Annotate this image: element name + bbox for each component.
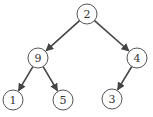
- edge-arrow: [46, 21, 79, 51]
- node-label: 1: [10, 94, 17, 107]
- tree-node: 5: [53, 90, 73, 110]
- tree-node: 9: [28, 48, 48, 68]
- edge-arrow: [19, 67, 33, 91]
- edge-arrow: [118, 67, 132, 90]
- node-label: 2: [84, 8, 91, 21]
- edge-arrow: [43, 67, 57, 91]
- tree-diagram: 294153: [0, 0, 153, 117]
- tree-node: 2: [77, 4, 97, 24]
- node-label: 3: [109, 93, 116, 106]
- node-label: 5: [60, 94, 67, 107]
- edge-arrow: [95, 21, 129, 51]
- tree-node: 4: [127, 48, 147, 68]
- tree-node: 3: [102, 89, 122, 109]
- tree-node: 1: [3, 90, 23, 110]
- node-label: 9: [35, 52, 42, 65]
- node-label: 4: [134, 52, 141, 65]
